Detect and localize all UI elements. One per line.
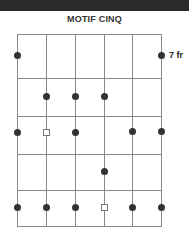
fret-line-3 <box>17 116 162 117</box>
note-dot <box>43 93 50 100</box>
note-dot <box>14 204 21 211</box>
diagram-title: MOTIF CINQ <box>0 14 189 24</box>
fret-line-1 <box>17 34 162 35</box>
header-bar <box>0 0 189 11</box>
note-dot <box>14 129 21 136</box>
note-dot <box>101 93 108 100</box>
note-dot <box>129 204 136 211</box>
fret-line-5 <box>17 190 162 191</box>
note-dot <box>129 128 136 135</box>
string-line-4 <box>104 34 105 227</box>
note-dot <box>72 129 79 136</box>
note-dot <box>158 204 165 211</box>
note-dot <box>14 52 21 59</box>
note-dot <box>158 128 165 135</box>
root-note-square <box>43 129 50 136</box>
fret-line-4 <box>17 154 162 155</box>
fret-line-2 <box>17 78 162 79</box>
note-dot <box>101 168 108 175</box>
fret-line-6 <box>17 226 162 227</box>
fret-label: 7 fr <box>169 50 183 60</box>
note-dot <box>158 52 165 59</box>
note-dot <box>72 204 79 211</box>
note-dot <box>72 93 79 100</box>
root-note-square <box>101 204 108 211</box>
note-dot <box>43 204 50 211</box>
